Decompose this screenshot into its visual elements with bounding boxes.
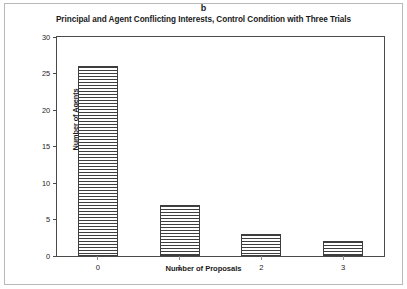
figure-container: b Principal and Agent Conflicting Intere…: [0, 0, 407, 289]
y-axis-tick-label: 5: [46, 214, 50, 225]
y-axis-tick-label: 15: [42, 141, 50, 152]
plot-area: Number of Agents 0510152025300123: [56, 36, 385, 257]
y-axis-tick-label: 0: [46, 251, 50, 262]
y-axis-tick-mark: [53, 256, 57, 257]
y-axis-tick-label: 10: [42, 178, 50, 189]
panel-label: b: [0, 3, 407, 13]
bar: [323, 241, 363, 256]
bar: [78, 66, 118, 256]
x-axis-tick-mark: [97, 256, 98, 260]
x-axis-tick-mark: [179, 256, 180, 260]
x-axis-title: Number of Proposals: [0, 264, 407, 273]
bar: [241, 234, 281, 256]
y-axis-tick-mark: [53, 73, 57, 74]
y-axis-tick-mark: [53, 110, 57, 111]
y-axis-tick-mark: [53, 219, 57, 220]
y-axis-tick-label: 20: [42, 105, 50, 116]
y-axis-tick-label: 30: [42, 32, 50, 43]
x-axis-tick-mark: [261, 256, 262, 260]
chart-title: Principal and Agent Conflicting Interest…: [0, 15, 407, 24]
x-axis-tick-mark: [343, 256, 344, 260]
bar: [160, 205, 200, 256]
y-axis-tick-mark: [53, 146, 57, 147]
y-axis-tick-label: 25: [42, 68, 50, 79]
y-axis-tick-mark: [53, 37, 57, 38]
y-axis-tick-mark: [53, 183, 57, 184]
